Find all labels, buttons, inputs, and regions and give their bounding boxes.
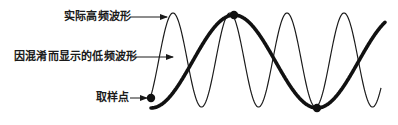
sample-point-dot	[313, 104, 321, 112]
actual-high-frequency-wave	[151, 13, 381, 107]
aliased-low-frequency-wave	[151, 15, 385, 108]
aliased-wave-label: 因混淆而显示的低频波形	[14, 51, 137, 63]
sample-point-dot	[147, 94, 155, 102]
actual-wave-label: 实际高频波形	[64, 11, 131, 23]
sample-points	[147, 11, 321, 112]
sample-point-label: 取样点	[96, 92, 130, 104]
sample-point-dot	[230, 11, 238, 19]
